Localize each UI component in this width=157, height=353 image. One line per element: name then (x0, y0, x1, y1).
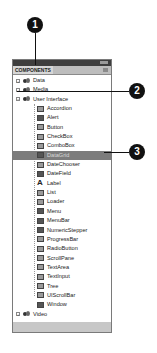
tree-item-label: UIScrollBar (47, 291, 75, 300)
loader-icon (37, 199, 44, 205)
folder-icon (23, 311, 30, 317)
expand-icon[interactable]: + (16, 312, 20, 316)
callout-3: 3 (129, 144, 145, 160)
tree-item-menubar[interactable]: MenuBar (13, 216, 111, 225)
tree-item-label: Button (47, 123, 63, 132)
tree-item-textarea[interactable]: TextArea (13, 263, 111, 272)
tree-folder-data[interactable]: +Data (13, 76, 111, 85)
tree-item-label: DateChooser (47, 160, 80, 169)
datagrid-icon (37, 152, 44, 158)
tree-item-button[interactable]: Button (13, 123, 111, 132)
tree-item-label: Loader (47, 197, 64, 206)
accordion-icon (37, 106, 44, 112)
tree-item-menu[interactable]: Menu (13, 207, 111, 216)
tree-item-uiscrollbar[interactable]: UIScrollBar (13, 291, 111, 300)
panel-tab-row: COMPONENTS (13, 66, 111, 75)
numericstepper-icon (37, 227, 44, 233)
tree-item-label: Menu (47, 207, 61, 216)
tree-item-label: Label (47, 179, 61, 188)
callout-1: 1 (27, 17, 43, 33)
tree-item-label: ComboBox (47, 141, 75, 150)
tree-item-label: TextInput (47, 272, 70, 281)
tree-item-label: RadioButton (47, 244, 78, 253)
menu-icon (37, 208, 44, 214)
tree-folder-video[interactable]: +Video (13, 310, 111, 319)
tree-item-radiobutton[interactable]: RadioButton (13, 244, 111, 253)
scrollpane-icon (37, 255, 44, 261)
folder-icon (23, 87, 30, 93)
tree-item-label: Data (33, 76, 45, 85)
panel-bottom-bar (13, 322, 111, 332)
tree-item-label: NumericStepper (47, 226, 87, 235)
textarea-icon (37, 264, 44, 270)
callout-2-leader (17, 91, 129, 92)
tree-item-loader[interactable]: Loader (13, 197, 111, 206)
tree-item-label: DateField (47, 169, 71, 178)
tree-item-datechooser[interactable]: DateChooser (13, 160, 111, 169)
tree-folder-user-interface[interactable]: −User Interface (13, 95, 111, 104)
tree-item-label: MenuBar (47, 216, 70, 225)
tree-item-datagrid[interactable]: DataGrid (13, 151, 111, 160)
tree-item-label: List (47, 188, 56, 197)
tree-item-combobox[interactable]: ComboBox (13, 141, 111, 150)
callout-3-leader (104, 152, 129, 153)
tree-item-alert[interactable]: Alert (13, 113, 111, 122)
collapse-icon[interactable]: − (16, 97, 20, 101)
tree-item-label: ProgressBar (47, 235, 78, 244)
panel-menu-icon[interactable] (103, 68, 108, 72)
tree-item-label: Video (33, 310, 47, 319)
window-icon (37, 302, 44, 308)
tree-item-progressbar[interactable]: ProgressBar (13, 235, 111, 244)
tree-item-label: CheckBox (47, 132, 73, 141)
label-icon: A (37, 180, 44, 186)
progressbar-icon (37, 236, 44, 242)
tree-item-tree[interactable]: Tree (13, 282, 111, 291)
tree-item-numericstepper[interactable]: NumericStepper (13, 226, 111, 235)
folder-icon (23, 78, 30, 84)
tree-item-accordion[interactable]: Accordion (13, 104, 111, 113)
components-panel: COMPONENTS +Data+Media−User InterfaceAcc… (12, 59, 112, 333)
panel-window-controls[interactable] (100, 61, 108, 64)
radiobutton-icon (37, 246, 44, 252)
folder-icon (23, 96, 30, 102)
tree-item-label: User Interface (33, 95, 68, 104)
uiscrollbar-icon (37, 292, 44, 298)
tree-item-label: Window (47, 300, 67, 309)
checkbox-icon (37, 134, 44, 140)
tab-components[interactable]: COMPONENTS (13, 66, 53, 74)
button-icon (37, 124, 44, 130)
datefield-icon (37, 171, 44, 177)
tree-item-label: TextArea (47, 263, 69, 272)
tree-item-datefield[interactable]: DateField (13, 169, 111, 178)
list-icon (37, 190, 44, 196)
tree-item-label: DataGrid (47, 151, 69, 160)
tree-icon (37, 283, 44, 289)
callout-2: 2 (129, 83, 145, 99)
tree-item-label: ScrollPane (47, 254, 74, 263)
tree-item-checkbox[interactable]: CheckBox (13, 132, 111, 141)
tree-item-scrollpane[interactable]: ScrollPane (13, 254, 111, 263)
combobox-icon (37, 143, 44, 149)
tree-item-list[interactable]: List (13, 188, 111, 197)
alert-icon (37, 115, 44, 121)
textinput-icon (37, 274, 44, 280)
menubar-icon (37, 218, 44, 224)
callout-1-leader (35, 33, 36, 65)
component-tree: +Data+Media−User InterfaceAccordionAlert… (13, 76, 111, 319)
tree-item-label: Tree (47, 282, 58, 291)
tree-item-label[interactable]: ALabel (13, 179, 111, 188)
tree-item-label: Alert (47, 113, 59, 122)
tree-item-label: Accordion (47, 104, 72, 113)
expand-icon[interactable]: + (16, 79, 20, 83)
tree-item-window[interactable]: Window (13, 300, 111, 309)
tree-item-textinput[interactable]: TextInput (13, 272, 111, 281)
datechooser-icon (37, 162, 44, 168)
